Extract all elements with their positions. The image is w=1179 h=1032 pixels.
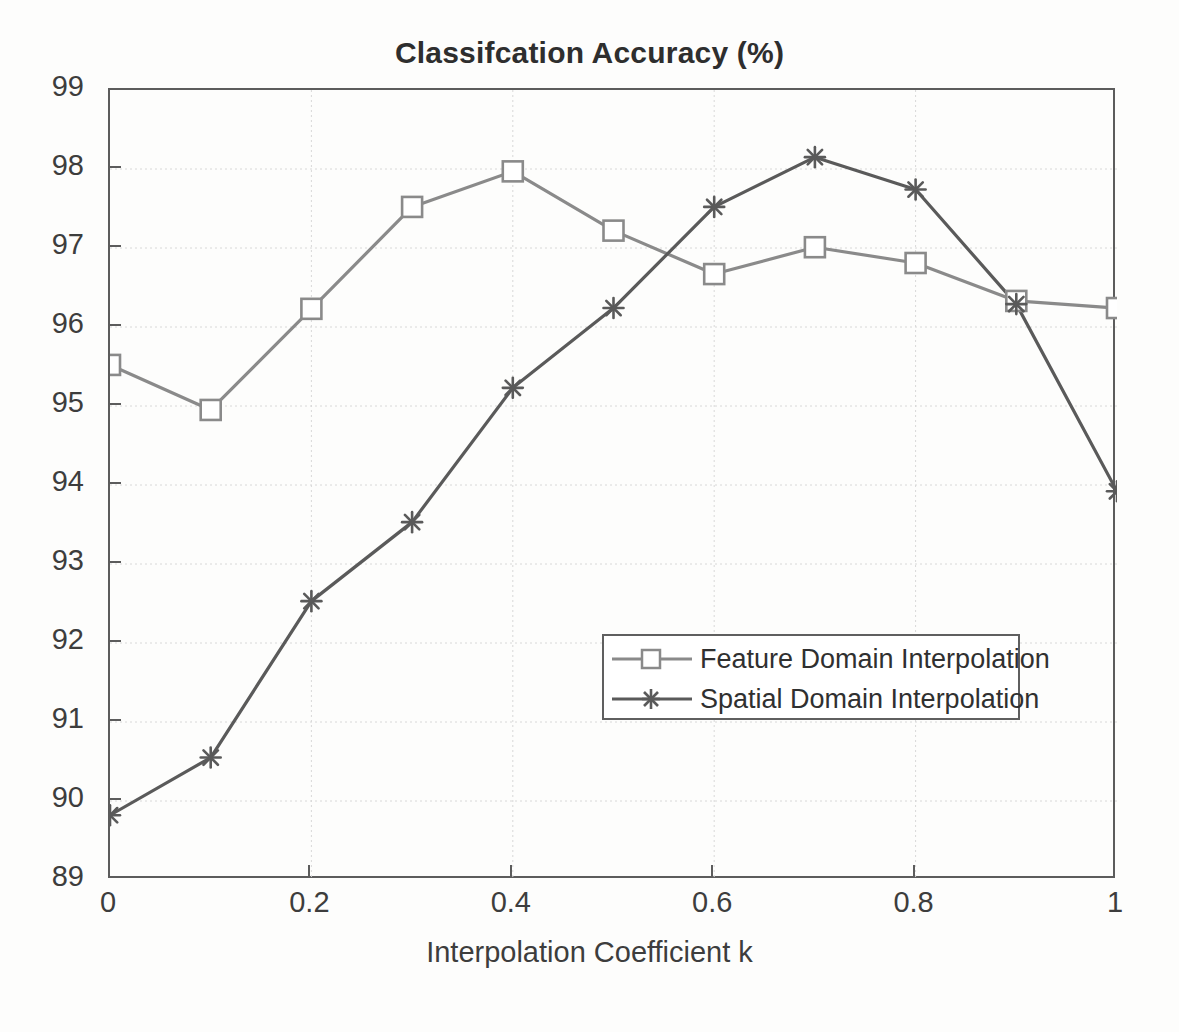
legend-item-feature[interactable]: Feature Domain Interpolation (604, 639, 1022, 679)
x-tick-mark (308, 865, 310, 878)
y-tick-label: 95 (4, 386, 84, 419)
y-tick-label: 93 (4, 544, 84, 577)
y-tick-label: 97 (4, 228, 84, 261)
x-tick-label: 0.6 (652, 886, 772, 919)
legend-item-spatial[interactable]: Spatial Domain Interpolation (604, 679, 1022, 719)
x-tick-label: 0 (48, 886, 168, 919)
legend-label-spatial: Spatial Domain Interpolation (700, 684, 1039, 715)
y-tick-mark (108, 166, 121, 168)
y-tick-label: 98 (4, 149, 84, 182)
x-tick-label: 1 (1055, 886, 1175, 919)
legend-label-feature: Feature Domain Interpolation (700, 644, 1050, 675)
y-tick-label: 94 (4, 465, 84, 498)
plot-area (108, 88, 1115, 878)
y-tick-mark (108, 640, 121, 642)
y-tick-label: 96 (4, 307, 84, 340)
plot-canvas (110, 90, 1117, 880)
x-tick-mark (711, 865, 713, 878)
y-tick-label: 99 (4, 70, 84, 103)
legend-swatch-square-icon (604, 639, 700, 679)
figure-container: Classifcation Accuracy (%) 9998979695949… (0, 0, 1179, 1032)
chart-legend: Feature Domain Interpolation Spatial Dom… (602, 634, 1020, 720)
x-tick-label: 0.4 (451, 886, 571, 919)
y-tick-mark (108, 561, 121, 563)
x-axis-label: Interpolation Coefficient k (0, 936, 1179, 969)
y-tick-label: 92 (4, 623, 84, 656)
y-tick-label: 90 (4, 781, 84, 814)
grid-lines (110, 90, 1117, 880)
y-tick-mark (108, 798, 121, 800)
legend-swatch-star-icon (604, 679, 700, 719)
y-tick-mark (108, 719, 121, 721)
x-tick-label: 0.8 (854, 886, 974, 919)
y-tick-mark (108, 245, 121, 247)
x-tick-mark (913, 865, 915, 878)
x-tick-label: 0.2 (249, 886, 369, 919)
chart-title: Classifcation Accuracy (%) (0, 36, 1179, 70)
x-tick-mark (510, 865, 512, 878)
y-tick-mark (108, 324, 121, 326)
y-tick-label: 91 (4, 702, 84, 735)
y-tick-mark (108, 482, 121, 484)
y-tick-mark (108, 403, 121, 405)
